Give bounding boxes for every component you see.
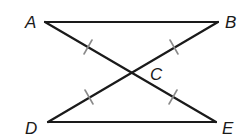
tick-mark-ac [84,40,92,54]
label-point-d: D [25,119,37,137]
label-point-c: C [150,65,163,84]
label-point-e: E [222,119,234,137]
label-point-a: A [24,13,36,32]
geometry-diagram: A B C D E [0,0,251,137]
tick-mark-ce [169,90,177,104]
label-point-b: B [225,13,236,32]
